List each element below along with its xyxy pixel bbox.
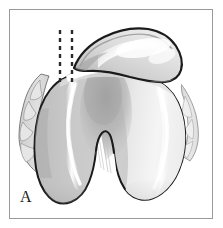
panel-label: A [20,189,32,205]
knee-joint-illustration [0,0,223,228]
figure-panel: A [0,0,223,228]
distal-femur-body [34,64,200,210]
